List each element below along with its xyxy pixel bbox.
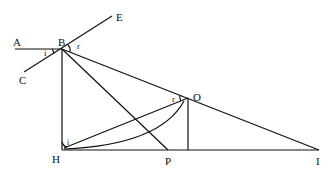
label-p: P	[165, 155, 171, 167]
line-bi	[62, 49, 319, 150]
label-e: E	[116, 11, 123, 23]
refraction-diagram: A B E C O H P I i r r i	[0, 0, 335, 174]
label-a: A	[13, 36, 21, 48]
label-h: H	[52, 153, 60, 165]
angle-label-r-at-o: r	[172, 94, 175, 104]
angle-label-r-at-b: r	[77, 41, 80, 51]
label-c: C	[19, 74, 26, 86]
label-b: B	[58, 36, 65, 48]
label-i: I	[316, 155, 320, 167]
line-bp	[62, 49, 168, 150]
label-o: O	[193, 91, 201, 103]
